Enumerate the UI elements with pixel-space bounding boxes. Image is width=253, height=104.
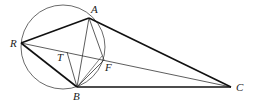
label-T: T (57, 51, 64, 63)
label-A: A (90, 3, 98, 15)
segment-RB (21, 43, 77, 87)
geometry-diagram: A R B C F T (0, 0, 253, 104)
segment-TB (67, 52, 77, 87)
segment-RA (21, 18, 89, 43)
diagram-svg: A R B C F T (0, 0, 253, 104)
label-B: B (73, 90, 80, 102)
segment-RC (21, 43, 231, 87)
segment-AC (89, 18, 231, 87)
label-F: F (104, 61, 112, 73)
label-C: C (236, 81, 244, 93)
segment-BF-2 (77, 56, 102, 87)
label-R: R (9, 37, 17, 49)
